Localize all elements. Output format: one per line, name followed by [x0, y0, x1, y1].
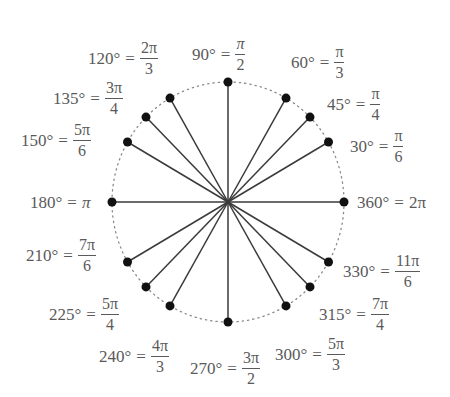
label-270: 270°= 3π2 — [190, 350, 260, 387]
fraction: π2 — [235, 36, 245, 73]
point-300 — [282, 301, 291, 310]
fraction: π6 — [393, 128, 403, 165]
fraction: 3π4 — [105, 80, 123, 117]
fraction: 11π6 — [395, 253, 420, 290]
fraction: 3π2 — [242, 350, 260, 387]
point-240 — [166, 301, 175, 310]
point-150 — [123, 138, 132, 147]
label-240: 240°= 4π3 — [99, 338, 169, 375]
label-360: 360°= 2π — [357, 194, 426, 211]
fraction: π3 — [334, 44, 344, 81]
point-60 — [282, 94, 291, 103]
label-180: 180°= π — [30, 194, 90, 211]
point-330 — [324, 258, 333, 267]
label-210: 210°= 7π6 — [26, 237, 96, 274]
point-45 — [306, 113, 315, 122]
fraction: 4π3 — [151, 338, 169, 375]
label-135: 135°= 3π4 — [53, 80, 123, 117]
point-210 — [123, 258, 132, 267]
point-135 — [142, 113, 151, 122]
point-225 — [142, 282, 151, 291]
label-330: 330°= 11π6 — [343, 253, 420, 290]
point-270 — [224, 318, 233, 327]
label-120: 120°= 2π3 — [88, 40, 158, 77]
label-30: 30°= π6 — [350, 128, 403, 165]
fraction: 5π4 — [101, 296, 119, 333]
fraction: π4 — [370, 86, 380, 123]
fraction: 5π3 — [327, 336, 345, 373]
point-315 — [306, 282, 315, 291]
point-360 — [340, 198, 349, 207]
label-300: 300°= 5π3 — [275, 336, 345, 373]
label-150: 150°= 5π6 — [21, 122, 91, 159]
label-225: 225°= 5π4 — [49, 296, 119, 333]
label-90: 90°= π2 — [192, 36, 245, 73]
fraction: 5π6 — [73, 122, 91, 159]
point-120 — [166, 94, 175, 103]
label-45: 45°= π4 — [327, 86, 380, 123]
label-315: 315°= 7π4 — [319, 296, 389, 333]
label-60: 60°= π3 — [291, 44, 344, 81]
fraction: 2π3 — [140, 40, 158, 77]
point-90 — [224, 78, 233, 87]
point-30 — [324, 138, 333, 147]
fraction: 7π6 — [78, 237, 96, 274]
fraction: 7π4 — [371, 296, 389, 333]
point-180 — [108, 198, 117, 207]
